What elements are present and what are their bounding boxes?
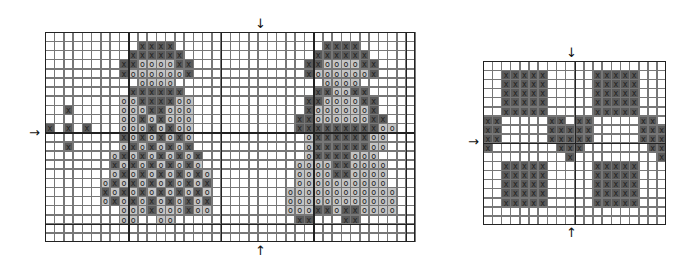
arrow-icon-main-left: → bbox=[29, 126, 40, 139]
chart-border bbox=[45, 32, 415, 242]
chart-divider-horizontal bbox=[483, 143, 666, 144]
arrow-icon-right-bottom: ↑ bbox=[566, 226, 577, 239]
chart-divider-vertical bbox=[128, 32, 129, 242]
chart-divider-vertical bbox=[221, 32, 222, 242]
chart-divider-vertical bbox=[406, 32, 407, 242]
small-knitting-chart: xxxxxxxxxxxxxxxxxxxxxxxxxxxxxxxxxxxxxxxx… bbox=[483, 61, 666, 225]
main-knitting-chart: xxxxxxxxxxxxxxxxxxxxxxooooxxxxooooxxxooo… bbox=[45, 32, 415, 242]
arrow-icon-right-left: → bbox=[468, 135, 479, 148]
chart-divider-vertical bbox=[313, 32, 314, 242]
arrow-icon-right-top: ↓ bbox=[566, 46, 577, 59]
arrow-icon-main-bottom: ↑ bbox=[255, 244, 266, 257]
arrow-icon-main-top: ↓ bbox=[255, 17, 266, 30]
chart-divider-horizontal bbox=[45, 132, 415, 133]
chart-divider-horizontal bbox=[45, 224, 415, 225]
